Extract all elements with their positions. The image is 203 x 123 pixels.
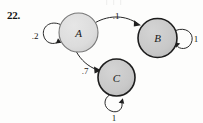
edge-a-to-c — [77, 52, 102, 74]
state-node-c-label: C — [113, 72, 121, 84]
state-node-c[interactable]: C — [98, 59, 135, 96]
state-node-b-label: B — [154, 32, 161, 44]
edge-label-a-to-c: .7 — [82, 66, 89, 76]
state-node-a[interactable]: A — [59, 13, 98, 52]
edge-c-self-loop — [105, 95, 124, 112]
figure-page: 22. .2 — [0, 0, 203, 123]
edge-label-a-self: .2 — [32, 31, 39, 41]
state-node-a-label: A — [74, 27, 82, 39]
state-diagram: .2 .1 .7 1 1 A — [0, 0, 203, 123]
page-bleed-artifact — [106, 0, 121, 5]
edge-label-c-self: 1 — [112, 113, 117, 123]
edge-label-b-self: 1 — [194, 34, 199, 44]
edge-label-a-to-b: .1 — [113, 11, 120, 21]
state-node-b[interactable]: B — [138, 19, 177, 58]
